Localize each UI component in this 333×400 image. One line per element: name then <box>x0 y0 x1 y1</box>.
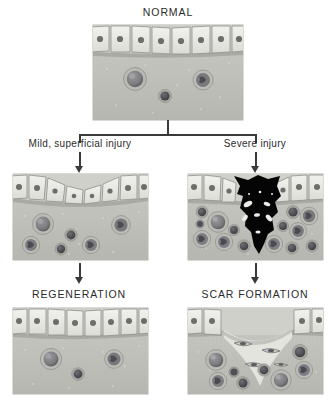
stroma-cell <box>82 236 99 253</box>
edge-label-mild-injury: Mild, superficial injury <box>5 138 155 149</box>
edge-label-severe-injury: Severe injury <box>180 138 330 149</box>
severe-injury-panel <box>188 174 323 260</box>
stroma-cell <box>158 89 171 102</box>
stroma-cell <box>193 70 213 90</box>
mild-injury-panel <box>13 174 148 260</box>
stroma-cell <box>228 224 239 235</box>
normal-tissue-illustration <box>93 25 243 120</box>
stroma-cell <box>55 243 67 255</box>
stroma-cell <box>209 372 226 389</box>
stroma-cell <box>72 368 85 381</box>
stroma-cell <box>277 220 288 231</box>
node-label-scar-formation: SCAR FORMATION <box>185 288 325 300</box>
stroma-cell <box>208 212 229 233</box>
stroma-cell <box>206 350 227 371</box>
stroma-cell <box>295 361 312 378</box>
stroma-cell <box>292 344 307 359</box>
node-label-regeneration: REGENERATION <box>9 288 149 300</box>
stroma-cell <box>238 240 250 252</box>
regeneration-illustration <box>13 308 148 394</box>
normal-tissue-panel <box>93 25 243 120</box>
arrow-head-scar <box>251 277 259 284</box>
arrow-head-regeneration <box>75 277 83 284</box>
diagram-root: NORMAL <box>0 0 333 400</box>
stroma-cell <box>300 207 318 225</box>
severe-injury-illustration <box>188 174 323 260</box>
stroma-cell <box>193 230 210 247</box>
arrow-head-severe <box>251 166 259 173</box>
stroma-cell <box>40 348 61 369</box>
regeneration-panel <box>13 308 148 394</box>
stroma-cell <box>124 68 147 91</box>
mild-injury-illustration <box>13 174 148 260</box>
stroma-cell <box>265 235 282 252</box>
scar-formation-illustration <box>188 308 323 394</box>
node-label-normal: NORMAL <box>93 6 243 18</box>
scar-formation-panel <box>188 308 323 394</box>
stroma-cell <box>306 240 318 252</box>
connector-branch-bar <box>79 134 257 136</box>
stroma-cell <box>237 377 250 390</box>
stroma-cell <box>286 205 299 218</box>
stroma-cell <box>229 367 239 377</box>
stroma-cell <box>22 236 39 253</box>
stroma-cell <box>65 229 77 241</box>
stroma-cell <box>33 214 54 235</box>
stroma-cell <box>271 370 291 390</box>
arrow-head-mild <box>75 166 83 173</box>
stroma-cell <box>258 364 270 376</box>
stroma-cell <box>196 220 205 229</box>
stroma-cell <box>112 216 131 235</box>
stroma-cell <box>105 350 124 369</box>
stroma-cell <box>286 242 298 254</box>
stroma-cell <box>290 223 307 240</box>
connector-normal-stem <box>167 120 169 135</box>
stroma-cell <box>196 206 208 218</box>
stroma-cell <box>215 233 232 250</box>
